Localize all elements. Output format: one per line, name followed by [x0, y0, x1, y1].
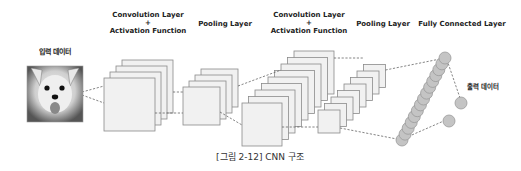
- fc-neuron: [439, 52, 451, 64]
- figure-caption: [그림 2-12] CNN 구조: [170, 150, 350, 163]
- output-neuron: [443, 115, 455, 127]
- connector-line: [447, 60, 460, 98]
- fc-nodes: [396, 52, 467, 146]
- feature-map: [104, 78, 155, 131]
- feature-map: [242, 103, 282, 146]
- conv1-stack: [104, 60, 173, 131]
- fc-label: Fully Connected Layer: [412, 20, 512, 29]
- connector-line: [340, 128, 402, 140]
- output-label: 출력 데이터: [460, 83, 506, 92]
- pool2-label: Pooling Layer: [355, 20, 411, 29]
- input-image-dog: [27, 66, 83, 122]
- conv1-label-line2: Activation Function: [108, 27, 188, 36]
- connector-line: [82, 86, 104, 92]
- feature-map: [183, 87, 220, 125]
- connector-line: [82, 95, 104, 103]
- feature-map: [318, 110, 340, 133]
- layer-stacks: [104, 51, 386, 146]
- input-label: 입력 데이터: [22, 48, 88, 57]
- conv2-label-line2: Activation Function: [269, 27, 349, 36]
- pool1-label: Pooling Layer: [195, 20, 255, 29]
- output-neuron: [455, 97, 467, 109]
- pool1-stack: [183, 69, 238, 125]
